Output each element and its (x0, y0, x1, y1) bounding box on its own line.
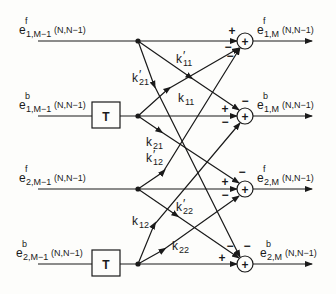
sum3-sign-k22: − (221, 188, 228, 202)
svg-text:b: b (266, 239, 271, 249)
node-f2 (135, 186, 140, 191)
svg-text:2,M−1: 2,M−1 (23, 252, 48, 262)
summer-3-symbol: + (241, 183, 248, 197)
svg-text:12: 12 (153, 157, 163, 167)
svg-text:(N,N−1): (N,N−1) (282, 100, 314, 110)
coef-k12: k 12 (132, 214, 149, 230)
delay-2-label: T (102, 258, 110, 272)
coef-k22: k 22 (172, 239, 189, 255)
svg-text:11: 11 (185, 97, 194, 107)
output-label-f2: f e 2,M (N,N−1) (257, 164, 314, 187)
svg-text:b: b (25, 91, 30, 101)
output-label-b1: b e 1,M (N,N−1) (257, 91, 314, 114)
sum1-sign-k12p: − (226, 49, 233, 63)
svg-text:e: e (19, 98, 26, 112)
svg-text:12: 12 (139, 220, 149, 230)
coef-k11p: k ′ 11 (176, 49, 192, 68)
svg-text:1,M−1: 1,M−1 (26, 104, 51, 114)
svg-text:1,M−1: 1,M−1 (26, 29, 51, 39)
svg-text:e: e (16, 246, 23, 260)
coef-k22p: k ′ 22 (176, 197, 193, 216)
sum4-sign-k22p: − (226, 239, 233, 253)
node-b2 (135, 261, 140, 266)
delay-1-label: T (102, 110, 110, 124)
diagram-svg: + + + + + − − − + − − + − − − + T T f e … (0, 0, 336, 294)
svg-text:(N,N−1): (N,N−1) (51, 248, 83, 258)
summer-2-symbol: + (241, 110, 248, 124)
input-label-f1: f e 1,M−1 (N,N−1) (19, 16, 86, 39)
svg-text:k: k (178, 91, 185, 105)
lattice-diagram: + + + + + − − − + − − + − − − + T T f e … (0, 0, 336, 294)
sum4-sign-direct: + (218, 251, 225, 265)
svg-text:2,M: 2,M (267, 252, 282, 262)
svg-text:11: 11 (183, 58, 192, 68)
svg-text:22: 22 (179, 245, 189, 255)
output-label-f1: f e 1,M (N,N−1) (257, 16, 314, 39)
summer-4-symbol: + (241, 258, 248, 272)
summer-1-symbol: + (241, 35, 248, 49)
sum1-sign-direct: + (228, 24, 235, 38)
sum2-sign-k12: − (221, 115, 228, 129)
sum3-sign-direct: + (221, 175, 228, 189)
input-label-b2: b e 2,M−1 (N,N−1) (16, 239, 83, 262)
coef-k21p: k ′ 21 (132, 68, 149, 87)
svg-text:k: k (172, 239, 179, 253)
svg-text:(N,N−1): (N,N−1) (282, 173, 314, 183)
svg-text:k: k (132, 71, 139, 85)
sum3-sign-k21: − (238, 165, 245, 179)
input-label-b1: b e 1,M−1 (N,N−1) (19, 91, 86, 114)
svg-text:b: b (22, 239, 27, 249)
output-label-b2: b e 2,M (N,N−1) (260, 239, 317, 262)
svg-text:(N,N−1): (N,N−1) (54, 100, 86, 110)
svg-text:e: e (19, 23, 26, 37)
svg-text:k: k (146, 151, 153, 165)
svg-text:k: k (132, 214, 139, 228)
svg-text:(N,N−1): (N,N−1) (54, 25, 86, 35)
svg-text:e: e (257, 23, 264, 37)
svg-text:1,M: 1,M (264, 29, 279, 39)
svg-text:(N,N−1): (N,N−1) (285, 248, 317, 258)
svg-text:k: k (176, 52, 183, 66)
coef-k11: k 11 (178, 91, 194, 107)
svg-text:(N,N−1): (N,N−1) (282, 25, 314, 35)
svg-text:e: e (19, 171, 26, 185)
node-b1 (135, 113, 140, 118)
svg-text:22: 22 (183, 206, 193, 216)
sum2-sign-direct: + (221, 102, 228, 116)
svg-text:2,M: 2,M (264, 177, 279, 187)
svg-text:21: 21 (139, 77, 149, 87)
sum4-sign-k21p: − (243, 239, 250, 253)
svg-text:k: k (176, 200, 183, 214)
svg-text:1,M: 1,M (264, 104, 279, 114)
sum2-sign-k11p: − (241, 94, 248, 108)
svg-text:e: e (257, 98, 264, 112)
svg-text:b: b (263, 91, 268, 101)
input-label-f2: f e 2,M−1 (N,N−1) (19, 164, 86, 187)
svg-text:(N,N−1): (N,N−1) (54, 173, 86, 183)
svg-text:e: e (257, 171, 264, 185)
svg-text:2,M−1: 2,M−1 (26, 177, 51, 187)
svg-text:e: e (260, 246, 267, 260)
svg-text:k: k (146, 135, 153, 149)
node-f1 (135, 38, 140, 43)
